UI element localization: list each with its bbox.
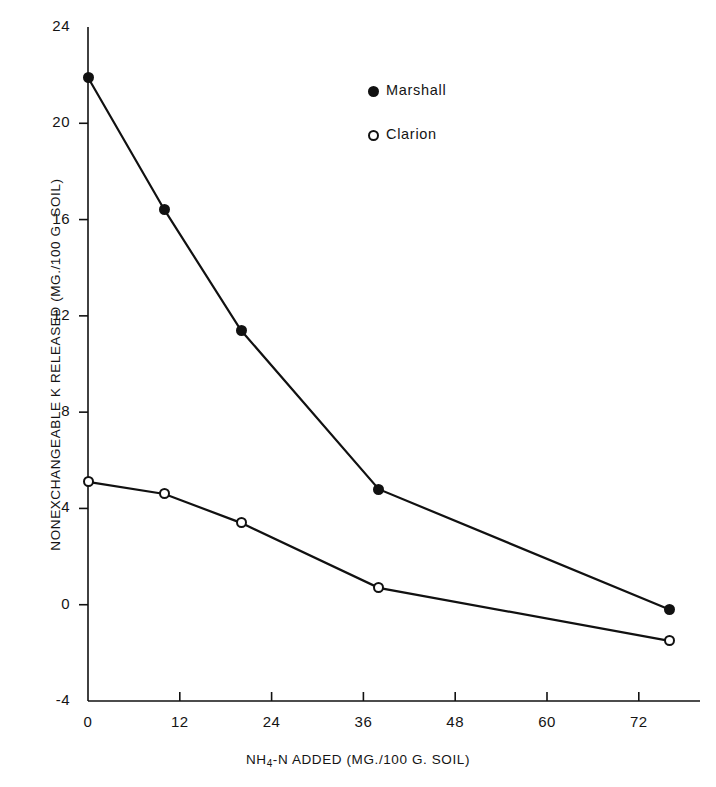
legend-label: Marshall — [386, 82, 446, 98]
x-tick-label: 24 — [252, 713, 292, 730]
data-point-marshall-2 — [236, 325, 247, 336]
legend-marker-filled-circle-icon — [368, 86, 379, 97]
data-point-marshall-4 — [664, 604, 675, 615]
y-tick-label: -4 — [30, 691, 70, 708]
series-lines — [88, 78, 669, 641]
x-axis-title-prefix: NH — [246, 752, 267, 767]
x-axis-title-suffix: -N ADDED (MG./100 G. SOIL) — [273, 752, 470, 767]
legend-item-clarion: Clarion — [368, 126, 437, 142]
data-point-marshall-0 — [83, 72, 94, 83]
x-tick-label: 36 — [343, 713, 383, 730]
chart-figure: 24201612840-4 0122436486072 NONEXCHANGEA… — [0, 0, 716, 787]
x-tick-marks — [180, 692, 639, 701]
data-point-marshall-3 — [373, 484, 384, 495]
series-line-marshall — [88, 78, 669, 610]
x-tick-label: 72 — [619, 713, 659, 730]
data-point-clarion-2 — [236, 517, 247, 528]
y-tick-marks — [79, 123, 88, 604]
x-tick-label: 60 — [527, 713, 567, 730]
legend-label: Clarion — [386, 126, 437, 142]
legend-item-marshall: Marshall — [368, 82, 446, 98]
y-tick-label: 24 — [30, 17, 70, 34]
data-point-clarion-0 — [83, 476, 94, 487]
plot-area — [0, 0, 716, 787]
x-tick-label: 0 — [68, 713, 108, 730]
y-axis-title: NONEXCHANGEABLE K RELEASED (MG./100 G. S… — [48, 105, 63, 625]
series-line-clarion — [88, 482, 669, 641]
legend-marker-open-circle-icon — [368, 130, 379, 141]
x-tick-label: 48 — [435, 713, 475, 730]
x-axis-title: NH4-N ADDED (MG./100 G. SOIL) — [0, 752, 716, 769]
x-tick-label: 12 — [160, 713, 200, 730]
